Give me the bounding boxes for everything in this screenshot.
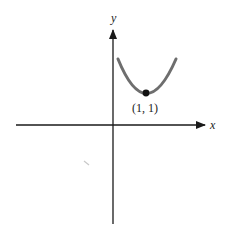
scan-artifact — [84, 161, 89, 165]
chart-canvas: y x (1, 1) — [0, 0, 228, 236]
parabola-curve — [118, 59, 176, 94]
vertex-label: (1, 1) — [132, 101, 158, 115]
y-axis-label: y — [110, 11, 117, 25]
vertex-point — [143, 90, 150, 97]
x-axis-label: x — [209, 118, 216, 132]
